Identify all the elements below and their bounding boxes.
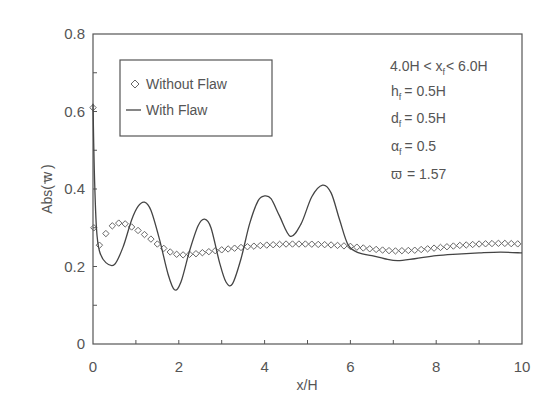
svg-text:Abs(w): Abs(w) xyxy=(39,164,55,214)
data-marker xyxy=(495,240,501,246)
data-marker xyxy=(328,242,334,248)
data-marker xyxy=(173,251,179,257)
param-flaw-height: hf= 0.5H xyxy=(391,83,446,102)
data-marker xyxy=(96,242,102,248)
data-marker xyxy=(515,241,521,247)
y-tick-label: 0.4 xyxy=(64,180,85,197)
data-marker xyxy=(283,241,289,247)
data-marker xyxy=(302,241,308,247)
data-marker xyxy=(360,245,366,251)
legend: Without Flaw With Flaw xyxy=(120,60,272,136)
parameter-annotations: 4.0H < xf< 6.0H hf= 0.5H df= 0.5H αf= 0.… xyxy=(390,58,488,182)
data-marker xyxy=(405,247,411,253)
data-marker xyxy=(392,248,398,254)
data-marker xyxy=(476,241,482,247)
x-tick-label: 6 xyxy=(346,358,354,375)
y-tick-label: 0.6 xyxy=(64,103,85,120)
data-marker xyxy=(219,247,225,253)
data-marker xyxy=(437,244,443,250)
data-marker xyxy=(231,245,237,251)
data-marker xyxy=(431,245,437,251)
data-marker xyxy=(412,247,418,253)
data-marker xyxy=(135,227,141,233)
data-marker xyxy=(309,241,315,247)
x-tick-label: 10 xyxy=(514,358,531,375)
x-axis-title: x/H xyxy=(297,377,318,393)
line-chart: 024681000.20.40.60.8 x/H Abs(w) Without … xyxy=(0,0,552,417)
y-tick-label: 0.2 xyxy=(64,258,85,275)
legend-label-with-flaw: With Flaw xyxy=(146,102,208,118)
data-marker xyxy=(489,240,495,246)
y-tick-label: 0.8 xyxy=(64,25,85,42)
data-marker xyxy=(270,242,276,248)
data-marker xyxy=(225,246,231,252)
data-marker xyxy=(206,248,212,254)
data-marker xyxy=(167,249,173,255)
data-marker xyxy=(373,246,379,252)
param-flaw-range: 4.0H < xf< 6.0H xyxy=(390,58,488,77)
data-marker xyxy=(276,241,282,247)
param-frequency: ϖ= 1.57 xyxy=(391,166,446,182)
data-marker xyxy=(463,242,469,248)
data-marker xyxy=(141,231,147,237)
data-marker xyxy=(122,221,128,227)
data-marker xyxy=(109,223,115,229)
data-marker xyxy=(264,242,270,248)
data-marker xyxy=(321,241,327,247)
x-tick-label: 4 xyxy=(260,358,268,375)
y-axis-title: Abs(w) xyxy=(39,164,55,214)
data-marker xyxy=(450,243,456,249)
data-marker xyxy=(257,242,263,248)
legend-box xyxy=(120,60,272,136)
x-tick-label: 8 xyxy=(432,358,440,375)
data-marker xyxy=(103,230,109,236)
data-marker xyxy=(193,251,199,257)
data-marker xyxy=(334,242,340,248)
data-marker xyxy=(199,249,205,255)
data-marker xyxy=(116,220,122,226)
data-marker xyxy=(341,243,347,249)
data-marker xyxy=(482,241,488,247)
y-tick-label: 0 xyxy=(77,335,85,352)
x-tick-label: 2 xyxy=(175,358,183,375)
data-marker xyxy=(502,240,508,246)
data-marker xyxy=(379,247,385,253)
data-marker xyxy=(251,243,257,249)
legend-label-without-flaw: Without Flaw xyxy=(146,76,228,92)
data-marker xyxy=(289,241,295,247)
data-marker xyxy=(444,244,450,250)
data-marker xyxy=(424,246,430,252)
data-marker xyxy=(418,246,424,252)
data-marker xyxy=(296,241,302,247)
data-marker xyxy=(457,242,463,248)
data-marker xyxy=(508,240,514,246)
param-flaw-alpha: αf= 0.5 xyxy=(391,138,436,157)
data-marker xyxy=(180,252,186,258)
param-flaw-depth: df= 0.5H xyxy=(391,110,446,129)
data-marker xyxy=(386,247,392,253)
data-marker xyxy=(399,247,405,253)
data-marker xyxy=(354,244,360,250)
data-marker xyxy=(469,241,475,247)
data-marker xyxy=(315,241,321,247)
x-tick-label: 0 xyxy=(89,358,97,375)
data-marker xyxy=(148,236,154,242)
data-marker xyxy=(367,246,373,252)
